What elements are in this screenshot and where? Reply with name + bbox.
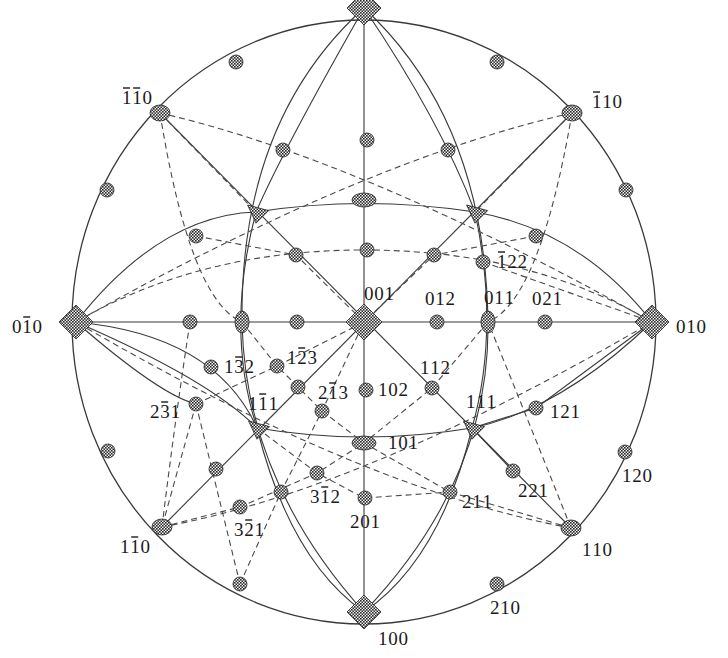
pole-label-012: 012 [425,288,455,309]
miller-index-digit: 3 [234,356,244,377]
pole-circle-icon [100,183,114,197]
miller-index-digit: 3 [338,382,348,403]
pole-label-021: 021 [532,288,562,309]
miller-index-digit: 0 [374,283,384,304]
pole-labels: 0011000100101101101101100111011111110120… [12,87,706,649]
pole-label--122: 122 [497,251,527,272]
miller-index-digit: 1 [602,91,612,112]
miller-index-digit: 0 [612,91,622,112]
miller-index-digit: 1 [370,511,380,532]
pole-4fold-diamond-icon [347,0,381,25]
pole-label-101: 101 [388,432,418,453]
miller-index-digit: 1 [224,356,234,377]
miller-index-digit: 1 [500,597,510,618]
miller-index-digit: 2 [244,519,254,540]
pole-circle-icon [360,133,374,147]
pole-circle-icon [529,401,543,415]
miller-index-digit: 1 [686,316,696,337]
pole-label-3-21: 321 [234,519,264,540]
miller-index-digit: 3 [160,401,170,422]
pole-circle-icon [359,383,373,397]
zone-line [162,404,240,584]
pole-label-201: 201 [350,511,380,532]
miller-index-digit: 1 [592,91,602,112]
pole-circle-icon [476,255,490,269]
pole-circle-icon [233,500,247,514]
miller-index-digit: 0 [360,511,370,532]
pole-circle-icon [233,577,247,591]
great-circle-arc [364,8,488,612]
miller-index-digit: 1 [494,287,504,308]
pole-label--1-10: 110 [122,87,152,108]
pole-circle-icon [315,404,329,418]
miller-index-digit: 0 [364,283,374,304]
miller-index-digit: 2 [517,251,527,272]
pole-circle-icon [529,229,543,243]
miller-index-digit: 1 [388,432,398,453]
miller-index-digit: 0 [398,432,408,453]
pole-2fold-ellipse-icon [562,105,582,121]
pole-circle-icon [310,466,324,480]
pole-circle-icon [209,462,223,476]
miller-index-digit: 2 [244,356,254,377]
pole-circle-icon [276,143,290,157]
miller-index-digit: 0 [532,288,542,309]
stereographic-projection: 0011000100101101101101100111011111110120… [0,0,728,658]
pole-2fold-ellipse-icon [235,311,249,333]
miller-index-digit: 1 [622,465,632,486]
zone-line [162,322,652,527]
pole-circle-icon [189,397,203,411]
miller-index-digit: 1 [476,391,486,412]
miller-index-digit: 2 [445,288,455,309]
pole-label-121: 121 [550,401,580,422]
pole-2fold-ellipse-icon [150,105,170,121]
pole-circle-icon [101,444,115,458]
pole-2fold-ellipse-icon [561,520,581,536]
projection-canvas: 0011000100101101101101100111011111110120… [0,0,728,658]
miller-index-digit: 1 [130,536,140,557]
pole-circle-icon [229,55,243,69]
miller-index-digit: 0 [510,597,520,618]
pole-circle-icon [619,183,633,197]
pole-label-010: 010 [676,316,706,337]
miller-index-digit: 0 [642,465,652,486]
great-circle-arc [472,428,513,471]
miller-index-digit: 2 [560,401,570,422]
miller-index-digit: 1 [248,393,258,414]
pole-label-001: 001 [364,283,394,304]
pole-circle-icon [490,55,504,69]
pole-circle-icon [270,359,284,373]
pole-label-1-10: 110 [120,536,150,557]
miller-index-digit: 1 [378,628,388,649]
miller-index-digit: 1 [258,393,268,414]
pole-label-1-11: 111 [248,393,278,414]
pole-circle-icon [290,315,304,329]
miller-index-digit: 3 [310,486,320,507]
pole-4fold-diamond-icon [635,305,669,339]
miller-index-digit: 1 [482,491,492,512]
pole-circle-icon [490,577,504,591]
miller-index-digit: 2 [398,379,408,400]
pole-circle-icon [430,315,444,329]
pole-circle-icon [443,485,457,499]
pole-circle-icon [618,445,632,459]
pole-label-110: 110 [582,539,612,560]
miller-index-digit: 0 [484,287,494,308]
miller-index-digit: 1 [472,491,482,512]
miller-index-digit: 3 [307,347,317,368]
pole-circle-icon [274,485,288,499]
miller-index-digit: 2 [350,511,360,532]
miller-index-digit: 2 [462,491,472,512]
miller-index-digit: 1 [550,401,560,422]
pole-circle-icon [204,360,218,374]
pole-label-100: 100 [378,628,408,649]
miller-index-digit: 2 [518,480,528,501]
pole-2fold-ellipse-icon [352,193,376,207]
pole-circle-icon [291,380,305,394]
great-circle-arc [76,322,196,404]
miller-index-digit: 0 [676,316,686,337]
miller-index-digit: 2 [632,465,642,486]
miller-index-digit: 1 [408,432,418,453]
miller-index-digit: 0 [388,628,398,649]
miller-index-digit: 1 [466,391,476,412]
